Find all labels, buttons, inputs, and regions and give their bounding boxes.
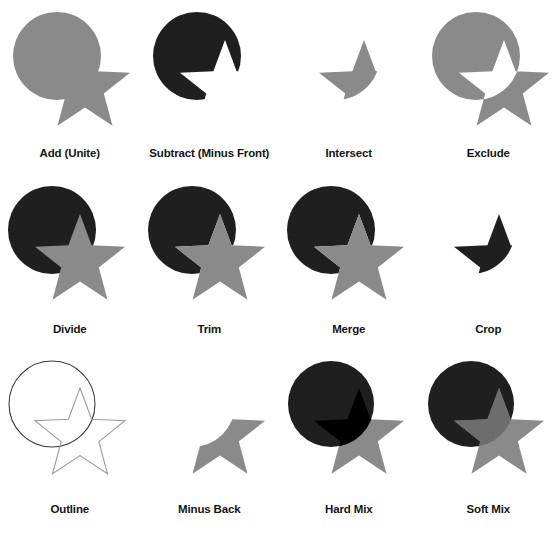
operation-label-crop: Crop — [475, 322, 501, 336]
operation-cell-exclude: Exclude — [419, 0, 558, 178]
operation-cell-hard-mix: Hard Mix — [279, 356, 419, 536]
operation-art-trim — [140, 178, 280, 318]
operation-label-divide: Divide — [53, 322, 87, 336]
operation-cell-divide: Divide — [0, 178, 140, 356]
operation-art-crop — [419, 178, 558, 318]
operation-label-hard-mix: Hard Mix — [325, 502, 372, 516]
operation-label-outline: Outline — [50, 502, 89, 516]
hard-mix-shape — [288, 361, 404, 474]
subtract-shape — [153, 12, 241, 100]
crop-shape — [454, 214, 544, 300]
merge-shape — [287, 186, 404, 300]
operation-cell-trim: Trim — [140, 178, 280, 356]
operation-cell-crop: Crop — [419, 178, 558, 356]
operation-art-subtract — [140, 0, 280, 140]
operation-cell-intersect: Intersect — [279, 0, 419, 178]
operation-art-exclude — [419, 0, 558, 140]
operation-art-soft-mix — [419, 356, 558, 496]
divide-shape — [8, 186, 125, 300]
operation-art-minus-back — [140, 356, 280, 496]
minus-back-shape — [175, 388, 265, 474]
operation-cell-minus-back: Minus Back — [140, 356, 280, 536]
operation-cell-merge: Merge — [279, 178, 419, 356]
operations-grid: Add (Unite) Subtract (Minus Front — [0, 0, 558, 536]
intersect-shape — [319, 40, 409, 126]
operation-label-minus-back: Minus Back — [178, 502, 240, 516]
operation-label-soft-mix: Soft Mix — [466, 502, 510, 516]
operation-cell-subtract: Subtract (Minus Front) — [140, 0, 280, 178]
operation-label-intersect: Intersect — [325, 146, 372, 160]
operation-cell-soft-mix: Soft Mix — [419, 356, 558, 536]
operation-label-trim: Trim — [197, 322, 221, 336]
outline-shape — [9, 361, 125, 474]
soft-mix-shape — [428, 361, 544, 474]
operation-cell-outline: Outline — [0, 356, 140, 536]
union-shape — [13, 12, 130, 126]
operation-art-divide — [0, 178, 140, 318]
operation-cell-add-unite: Add (Unite) — [0, 0, 140, 178]
operation-label-add-unite: Add (Unite) — [40, 146, 100, 160]
operation-label-exclude: Exclude — [467, 146, 510, 160]
operation-art-intersect — [279, 0, 419, 140]
exclude-shape — [432, 12, 549, 126]
operation-art-merge — [279, 178, 419, 318]
operation-art-hard-mix — [279, 356, 419, 496]
operation-art-add-unite — [0, 0, 140, 140]
pathfinder-figure: Add (Unite) Subtract (Minus Front — [0, 0, 558, 536]
operation-label-merge: Merge — [332, 322, 365, 336]
trim-shape — [148, 186, 265, 300]
operation-label-subtract: Subtract (Minus Front) — [149, 146, 269, 160]
operation-art-outline — [0, 356, 140, 496]
